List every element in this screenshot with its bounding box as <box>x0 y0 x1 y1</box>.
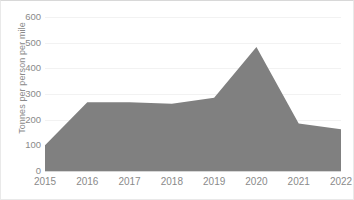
area-chart: Tonnes per person per mile 0100200300400… <box>0 0 354 200</box>
y-axis-tick-labels: 0100200300400500600 <box>0 17 41 171</box>
y-tick-label-600: 600 <box>1 12 41 22</box>
x-tick-label-2017: 2017 <box>109 176 151 188</box>
y-tick-label-200: 200 <box>1 115 41 125</box>
plot-area <box>45 17 341 171</box>
x-tick-label-2015: 2015 <box>24 176 66 188</box>
x-axis-tick-labels: 20152016201720182019202020212022 <box>45 176 341 190</box>
x-tick-label-2016: 2016 <box>66 176 108 188</box>
x-tick-label-2021: 2021 <box>278 176 320 188</box>
area-fill-polygon <box>45 47 341 171</box>
x-tick-label-2018: 2018 <box>151 176 193 188</box>
area-series-tonnes-per-person-per-mile <box>45 17 341 171</box>
y-tick-label-400: 400 <box>1 63 41 73</box>
y-tick-label-0: 0 <box>1 166 41 176</box>
x-tick-label-2022: 2022 <box>320 176 354 188</box>
x-tick-label-2019: 2019 <box>193 176 235 188</box>
gridline-0 <box>45 171 341 172</box>
x-tick-label-2020: 2020 <box>235 176 277 188</box>
y-tick-label-100: 100 <box>1 140 41 150</box>
y-tick-label-300: 300 <box>1 89 41 99</box>
y-tick-label-500: 500 <box>1 38 41 48</box>
